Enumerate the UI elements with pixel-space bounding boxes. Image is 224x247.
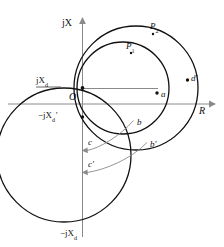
label-b: b <box>137 118 142 127</box>
origin-label-O: O <box>69 92 76 102</box>
label-P1: P1 <box>126 42 135 51</box>
label-P2: P2 <box>150 22 159 31</box>
point-P2 <box>152 33 154 35</box>
point-d-prime <box>186 78 189 81</box>
horizontal-axis-arrowhead <box>209 101 216 108</box>
circles-group <box>0 26 198 222</box>
circle-lower-left <box>0 88 131 222</box>
label-jXd: jXd <box>36 76 48 85</box>
label-c: c <box>88 138 92 147</box>
figure-canvas: jX R O jXd −jXd′ −jXd P1 P2 a d′ b b′ <box>0 0 224 247</box>
point-jXd <box>81 86 85 90</box>
arc-b-to-c <box>87 121 134 151</box>
label-c-prime: c′ <box>88 160 94 169</box>
label-neg-jXd: −jXd <box>60 229 77 238</box>
vertical-axis-arrowhead <box>79 17 86 24</box>
axis-label-jX: jX <box>62 18 72 28</box>
point-neg-jXd-prime <box>81 115 84 118</box>
phasor-circle-diagram <box>0 0 224 247</box>
label-b-prime: b′ <box>150 140 156 149</box>
points-group <box>81 33 190 119</box>
label-a: a <box>161 90 166 99</box>
point-a <box>155 91 158 94</box>
label-neg-jXd-prime: −jXd′ <box>38 111 57 120</box>
label-d-prime: d′ <box>191 74 197 83</box>
axis-label-R: R <box>199 106 205 116</box>
